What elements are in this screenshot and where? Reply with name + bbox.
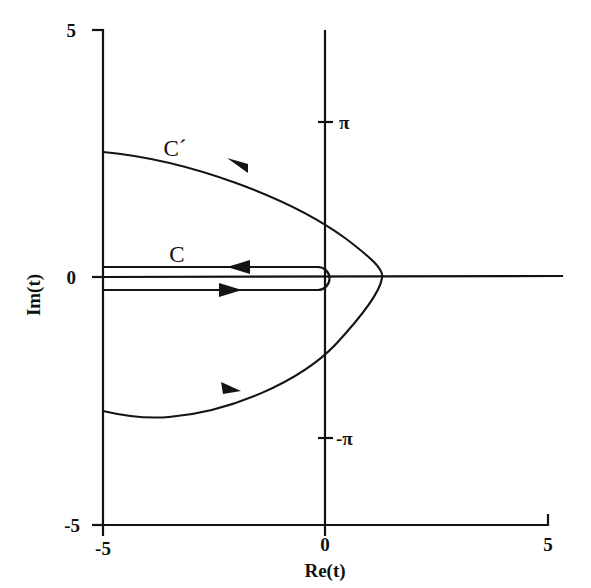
contour-diagram-figure: 5 0 -5 -5 0 5 Re(t) Im(t) π -π C´ C <box>0 0 591 588</box>
contour-c-arrow-upper <box>227 260 250 274</box>
label-y-min: -5 <box>64 515 80 536</box>
label-x-max: 5 <box>543 534 553 555</box>
label-x-origin: 0 <box>320 534 330 555</box>
contour-c-prime-arrow-lower <box>221 382 241 394</box>
label-y-max: 5 <box>67 20 77 41</box>
label-x-min: -5 <box>95 538 111 559</box>
contour-c-prime-path <box>103 152 382 418</box>
figure-canvas: 5 0 -5 -5 0 5 Re(t) Im(t) π -π C´ C <box>0 0 591 588</box>
label-imag-minus-pi: -π <box>336 428 353 449</box>
label-y-origin: 0 <box>67 267 77 288</box>
contour-c-prime-arrow-upper <box>227 158 248 173</box>
contour-c-arrow-lower <box>219 283 242 297</box>
label-contour-c: C <box>169 242 184 267</box>
frame-axes <box>92 30 548 536</box>
axis-label-y: Im(t) <box>23 274 45 316</box>
contour-c-path <box>103 267 330 290</box>
axis-label-x: Re(t) <box>304 560 345 582</box>
label-imag-pi: π <box>339 112 350 133</box>
label-contour-c-prime: C´ <box>164 136 187 161</box>
real-axis-line <box>103 276 562 277</box>
